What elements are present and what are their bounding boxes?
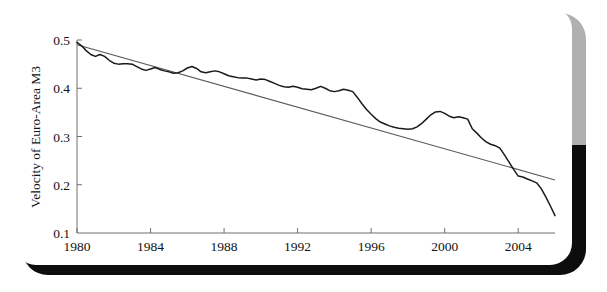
- y-tick-label: 0.3: [53, 130, 70, 145]
- x-tick-label: 2004: [505, 239, 532, 254]
- x-tick-label: 1996: [358, 239, 385, 254]
- y-tick-label: 0.5: [53, 33, 70, 48]
- x-tick-label: 1988: [211, 239, 238, 254]
- velocity-line-chart: 0.10.20.30.40.5 198019841988199219962000…: [0, 0, 607, 292]
- velocity-data-series: [77, 42, 555, 215]
- x-tick-label: 1980: [64, 239, 91, 254]
- x-axis-ticks: 1980198419881992199620002004: [64, 228, 532, 254]
- x-tick-label: 1984: [137, 239, 164, 254]
- y-tick-label: 0.2: [53, 178, 70, 193]
- figure-container: 0.10.20.30.40.5 198019841988199219962000…: [0, 0, 607, 292]
- y-tick-label: 0.4: [53, 81, 70, 96]
- y-axis-ticks: 0.10.20.30.40.5: [53, 33, 82, 241]
- x-tick-label: 2000: [431, 239, 458, 254]
- trend-line-series: [77, 45, 555, 180]
- chart-plot-area: 0.10.20.30.40.5 198019841988199219962000…: [0, 0, 607, 292]
- x-tick-label: 1992: [284, 239, 311, 254]
- y-axis-title: Velocity of Euro-Area M3: [28, 66, 43, 208]
